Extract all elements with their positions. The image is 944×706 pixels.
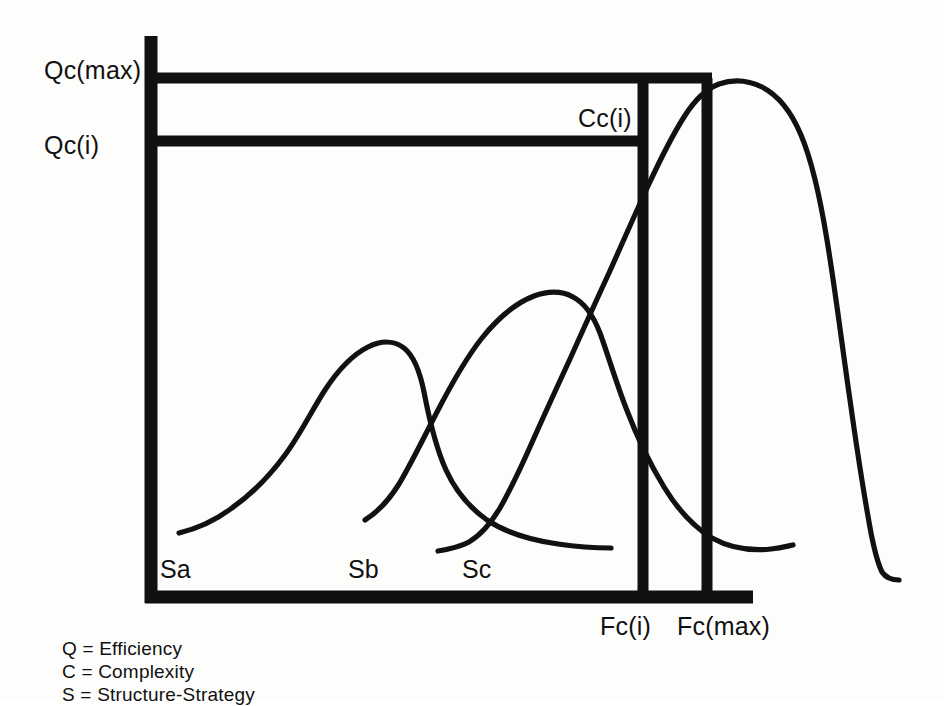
curve-sa bbox=[179, 342, 611, 548]
band-label-cc-i: Cc(i) bbox=[578, 106, 632, 131]
curve-label-sc: Sc bbox=[462, 557, 492, 582]
y-label-qc-i: Qc(i) bbox=[44, 133, 99, 158]
x-label-fc-i: Fc(i) bbox=[600, 614, 651, 639]
curve-label-sa: Sa bbox=[160, 557, 191, 582]
legend-row-q: Q = Efficiency bbox=[62, 637, 255, 660]
curves-group bbox=[179, 81, 899, 580]
legend: Q = Efficiency C = Complexity S = Struct… bbox=[62, 637, 255, 706]
x-label-fc-max: Fc(max) bbox=[677, 614, 770, 639]
axes-group bbox=[145, 36, 753, 603]
curve-sc bbox=[438, 81, 899, 580]
legend-row-s: S = Structure-Strategy bbox=[62, 683, 255, 706]
legend-row-c: C = Complexity bbox=[62, 660, 255, 683]
y-label-qc-max: Qc(max) bbox=[44, 58, 141, 83]
curve-label-sb: Sb bbox=[348, 557, 379, 582]
